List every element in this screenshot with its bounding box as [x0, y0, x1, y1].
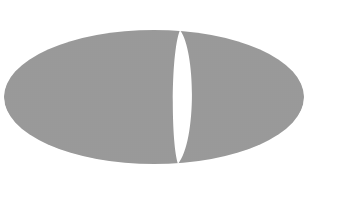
figure-canvas: Gray textured ellipse divided by a white…: [0, 0, 337, 203]
split-ellipse-figure: Gray textured ellipse divided by a white…: [0, 0, 337, 203]
